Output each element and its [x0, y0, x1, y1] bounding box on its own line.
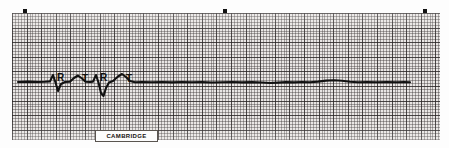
ecg-rhythm-strip: RTRT CAMBRIDGE: [0, 0, 449, 148]
wave-label-t-2: T: [126, 74, 132, 84]
brand-label: CAMBRIDGE: [95, 130, 158, 142]
wave-label-r-1: R: [57, 73, 64, 83]
ecg-waveform-trace: [12, 13, 440, 140]
wave-label-t-1: T: [82, 74, 88, 84]
brand-label-text: CAMBRIDGE: [106, 133, 146, 139]
wave-label-r-2: R: [100, 73, 107, 83]
ecg-trace-path: [18, 74, 410, 96]
